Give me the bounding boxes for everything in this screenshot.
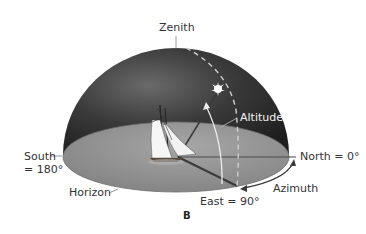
azimuth-arrowhead-north	[290, 159, 296, 166]
north-label: North = 0°	[300, 151, 359, 163]
celestial-dome-diagram	[0, 0, 366, 234]
south-label-line2: = 180°	[24, 164, 63, 176]
figure-caption: B	[183, 210, 191, 222]
south-label-line1: South	[24, 151, 56, 163]
zenith-label: Zenith	[159, 22, 195, 34]
east-label: East = 90°	[200, 196, 259, 208]
azimuth-label: Azimuth	[273, 183, 318, 195]
horizon-label: Horizon	[69, 187, 111, 199]
altitude-label: Altitude	[240, 112, 283, 124]
